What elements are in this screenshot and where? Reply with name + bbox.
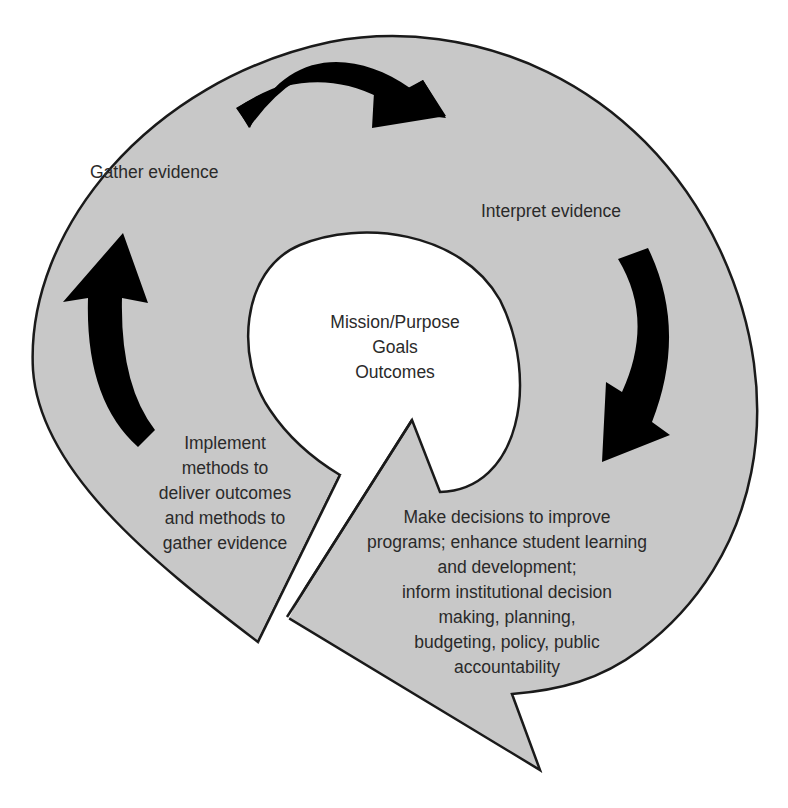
- step-gather-evidence: Gather evidence: [90, 160, 218, 185]
- step-label-line: inform institutional decision: [362, 580, 652, 605]
- step-label-line: and development;: [362, 555, 652, 580]
- step-label-line: Interpret evidence: [481, 199, 621, 224]
- step-implement-methods: Implement methods to deliver outcomes an…: [132, 431, 318, 556]
- step-label-line: and methods to: [132, 506, 318, 531]
- center-line: Mission/Purpose: [310, 310, 480, 335]
- step-label-line: accountability: [362, 655, 652, 680]
- center-line: Outcomes: [310, 360, 480, 385]
- step-label-line: Gather evidence: [90, 160, 218, 185]
- step-label-line: programs; enhance student learning: [362, 530, 652, 555]
- step-interpret-evidence: Interpret evidence: [481, 199, 621, 224]
- step-label-line: deliver outcomes: [132, 481, 318, 506]
- step-label-line: Make decisions to improve: [362, 505, 652, 530]
- step-make-decisions: Make decisions to improve programs; enha…: [362, 505, 652, 680]
- step-label-line: making, planning,: [362, 605, 652, 630]
- step-label-line: methods to: [132, 456, 318, 481]
- cycle-diagram: [0, 0, 788, 808]
- center-line: Goals: [310, 335, 480, 360]
- step-label-line: gather evidence: [132, 531, 318, 556]
- step-label-line: Implement: [132, 431, 318, 456]
- step-label-line: budgeting, policy, public: [362, 630, 652, 655]
- center-mission-goals-outcomes: Mission/Purpose Goals Outcomes: [310, 310, 480, 385]
